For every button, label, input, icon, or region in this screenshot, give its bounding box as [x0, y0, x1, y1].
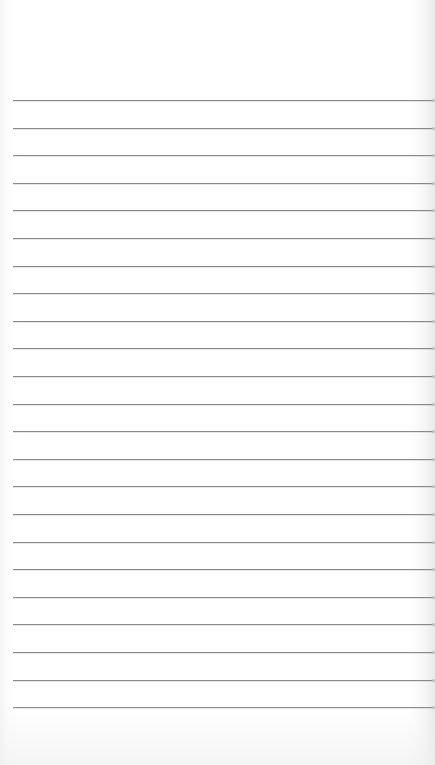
ruled-line [13, 321, 433, 322]
ruled-line [13, 100, 433, 101]
ruled-line [13, 486, 433, 487]
ruled-line [13, 266, 433, 267]
ruled-line [13, 652, 433, 653]
ruled-line [13, 183, 433, 184]
ruled-line [13, 514, 433, 515]
ruled-line [13, 597, 433, 598]
ruled-line [13, 707, 433, 708]
ruled-line [13, 128, 433, 129]
ruled-line [13, 238, 433, 239]
ruled-line [13, 210, 433, 211]
ruled-line [13, 542, 433, 543]
ruled-line [13, 569, 433, 570]
ruled-line [13, 376, 433, 377]
ruled-line [13, 431, 433, 432]
ruled-line [13, 459, 433, 460]
ruled-line [13, 293, 433, 294]
ruled-line [13, 404, 433, 405]
ruled-line [13, 624, 433, 625]
ruled-line [13, 680, 433, 681]
ruled-line [13, 155, 433, 156]
ruled-line [13, 348, 433, 349]
lined-paper-sheet [0, 0, 435, 765]
